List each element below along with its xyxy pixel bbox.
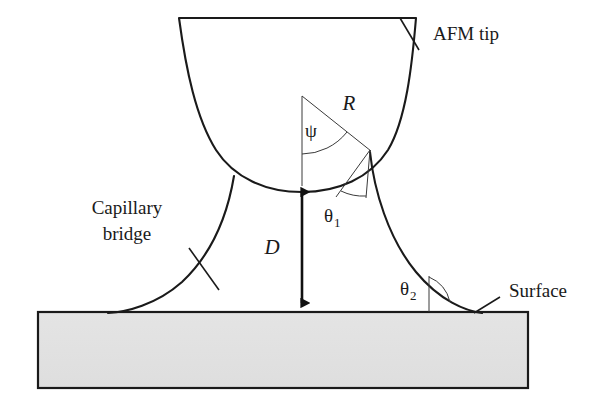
afm-capillary-diagram: AFM tip Capillary bridge Surface R ψ D θ… [0, 0, 592, 412]
surface-label: Surface [509, 280, 567, 301]
substrate-rect [38, 312, 528, 388]
afm-tip-label: AFM tip [433, 23, 499, 44]
theta1-angle-arc [341, 191, 366, 196]
afm-tip-body [179, 18, 416, 192]
radius-construction-group [302, 96, 371, 186]
afm-tip-group [179, 18, 416, 192]
meniscus-right-curve [370, 152, 482, 313]
surface-leader [474, 297, 500, 313]
leader-lines-group [189, 18, 500, 313]
theta2-label: θ [400, 278, 409, 299]
theta1-subscript: 1 [334, 215, 341, 230]
substrate-group [38, 312, 528, 388]
separation-label: D [263, 235, 279, 259]
psi-angle-label: ψ [305, 120, 317, 141]
capillary-bridge-label-line1: Capillary [92, 197, 163, 218]
diagram-canvas: AFM tip Capillary bridge Surface R ψ D θ… [0, 0, 592, 412]
capillary-bridge-label-line2: bridge [103, 223, 152, 244]
theta2-subscript: 2 [410, 288, 417, 303]
capillary-bridge-group [108, 152, 482, 313]
labels-group: AFM tip Capillary bridge Surface R ψ D θ… [92, 23, 567, 303]
theta1-label: θ [324, 205, 333, 226]
radius-label: R [342, 91, 356, 115]
